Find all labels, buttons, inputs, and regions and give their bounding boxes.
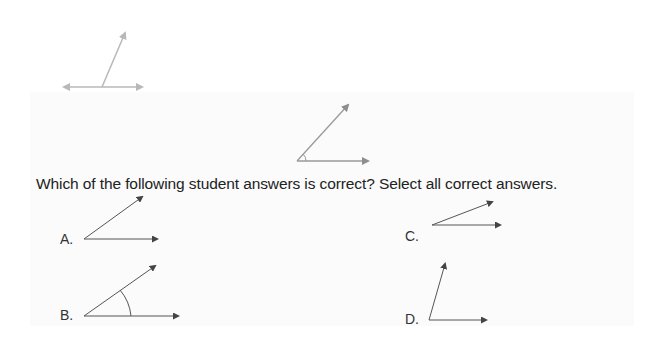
option-a-label[interactable]: A. [60,231,73,247]
option-d-label[interactable]: D. [405,311,419,327]
option-c-angle[interactable] [432,202,500,225]
question-text: Which of the following student answers i… [36,175,557,193]
option-a-angle[interactable] [84,197,157,239]
reference-angle-figure [297,105,368,161]
option-d-angle[interactable] [429,264,486,320]
option-c-label[interactable]: C. [405,228,419,244]
figure-canvas [0,0,664,343]
top-example-figure [64,33,142,87]
option-b-label[interactable]: B. [60,307,73,323]
option-b-angle[interactable] [84,266,178,316]
